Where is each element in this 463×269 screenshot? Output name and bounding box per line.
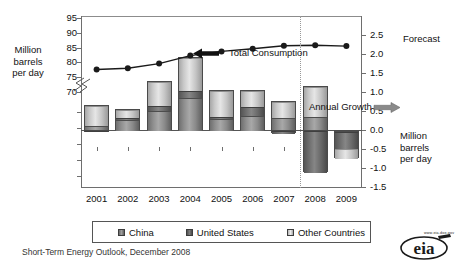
forecast-divider-line: [300, 16, 301, 188]
left-axis-title-line3: per day: [2, 67, 54, 79]
x-tick-label-2008: 2008: [300, 193, 331, 204]
x-tick-label-2004: 2004: [175, 193, 206, 204]
arrow-left-icon: [191, 47, 221, 60]
x-tick-label-2003: 2003: [143, 193, 174, 204]
arrow-right-icon: [372, 101, 402, 114]
left-axis-tick-labels: 959085807570: [52, 16, 77, 188]
x-tick-label-2005: 2005: [206, 193, 237, 204]
left-axis-title-line1: Million: [2, 44, 54, 56]
right-tick: [362, 130, 366, 131]
eia-logo-icon: eia: [398, 231, 456, 261]
left-tick-label-95: 95: [66, 13, 77, 22]
annotation-forecast: Forecast: [403, 33, 440, 44]
right-axis-title-line3: per day: [400, 153, 460, 165]
consumption-point-2001: [94, 67, 100, 73]
right-tick: [362, 168, 366, 169]
left-tick-label-85: 85: [66, 43, 77, 52]
eia-logo-url: www.eia.doe.gov: [424, 231, 454, 235]
plot-area: Total Consumption Annual Growth Forecast: [81, 16, 362, 188]
annotation-total-consumption: Total Consumption: [229, 47, 308, 58]
legend-swatch-united-states-icon: [186, 229, 193, 236]
left-axis-title-line2: barrels: [2, 56, 54, 68]
chart-legend: China United States Other Countries: [92, 221, 371, 243]
right-tick: [362, 149, 366, 150]
x-tick-label-2007: 2007: [268, 193, 299, 204]
right-tick-label--0.5: -0.5: [370, 144, 386, 153]
legend-swatch-other-countries-icon: [287, 229, 294, 236]
consumption-point-2002: [125, 65, 131, 71]
legend-item-other-countries[interactable]: Other Countries: [287, 227, 365, 238]
right-axis-title-line2: barrels: [400, 142, 460, 154]
right-tick-label-1.0: 1.0: [370, 87, 383, 96]
left-tick-label-80: 80: [66, 57, 77, 66]
axis-break-icon: [72, 76, 94, 94]
x-tick-label-2006: 2006: [237, 193, 268, 204]
right-tick-label-0.0: 0.0: [370, 125, 383, 134]
annotation-annual-growth: Annual Growth: [309, 101, 372, 112]
right-axis-title-line1: Million: [400, 130, 460, 142]
svg-text:eia: eia: [414, 239, 435, 258]
legend-label-united-states: United States: [197, 227, 254, 238]
legend-label-china: China: [129, 227, 154, 238]
right-tick-label-2.0: 2.0: [370, 49, 383, 58]
legend-label-other-countries: Other Countries: [298, 227, 365, 238]
x-tick-label-2001: 2001: [81, 193, 112, 204]
left-tick-label-90: 90: [66, 28, 77, 37]
legend-item-united-states[interactable]: United States: [186, 227, 254, 238]
right-tick: [362, 35, 366, 36]
right-tick: [362, 187, 366, 188]
right-tick: [362, 73, 366, 74]
chart-figure: Million barrels per day 959085807570 2.5…: [0, 0, 463, 269]
right-tick-label-2.5: 2.5: [370, 30, 383, 39]
left-axis-title: Million barrels per day: [2, 44, 54, 79]
legend-item-china[interactable]: China: [118, 227, 154, 238]
right-tick: [362, 54, 366, 55]
x-tick-label-2002: 2002: [112, 193, 143, 204]
x-axis-tick-labels: 200120022003200420052006200720082009: [81, 193, 362, 207]
right-axis-title: Million barrels per day: [400, 130, 460, 165]
consumption-point-2003: [156, 61, 162, 67]
source-note: Short-Term Energy Outlook, December 2008: [22, 247, 190, 257]
x-tick-label-2009: 2009: [331, 193, 362, 204]
right-tick: [362, 92, 366, 93]
right-tick-label--1.0: -1.0: [370, 163, 386, 172]
consumption-point-2009: [343, 43, 349, 49]
consumption-point-2008: [312, 42, 318, 48]
right-tick-label--1.5: -1.5: [370, 182, 386, 191]
right-tick-label-1.5: 1.5: [370, 68, 383, 77]
legend-swatch-china-icon: [118, 229, 125, 236]
